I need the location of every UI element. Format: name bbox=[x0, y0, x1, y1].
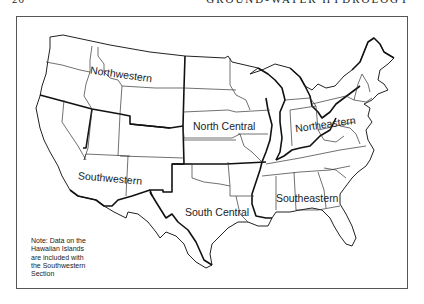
note-line: the Southwestern bbox=[31, 262, 101, 270]
region-label-south-central: South Central bbox=[185, 206, 249, 218]
region-label-southeastern: Southeastern bbox=[276, 192, 338, 204]
note-line: Section bbox=[31, 270, 101, 278]
note-line: are included with bbox=[31, 254, 101, 262]
hawaii-note: Note: Data on the Hawaiian Islands are i… bbox=[31, 237, 101, 278]
note-line: Note: Data on the bbox=[31, 237, 101, 245]
note-line: Hawaiian Islands bbox=[31, 245, 101, 253]
region-label-north-central: North Central bbox=[193, 120, 255, 132]
